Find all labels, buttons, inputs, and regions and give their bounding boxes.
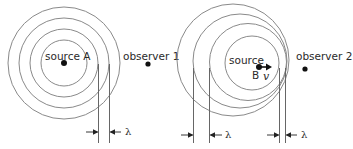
observer-2-label: observer 2 xyxy=(296,50,352,62)
observer-1-dot xyxy=(145,61,150,66)
moving-source-panel xyxy=(177,4,289,143)
source-b-label-line2: B xyxy=(252,69,259,81)
wavelength-label-ahead: λ xyxy=(301,129,308,140)
velocity-label: v xyxy=(263,70,270,83)
observer-2-dot xyxy=(302,66,307,71)
source-a-label: source A xyxy=(45,50,91,62)
source-b-label-line1: source xyxy=(229,54,264,66)
doppler-diagram: source A observer 1 λ source B v observe… xyxy=(0,0,353,149)
stationary-source-panel xyxy=(8,7,120,143)
observer-1-label: observer 1 xyxy=(123,50,179,62)
wavelength-label-behind: λ xyxy=(225,129,232,140)
wavelength-label: λ xyxy=(125,126,132,137)
